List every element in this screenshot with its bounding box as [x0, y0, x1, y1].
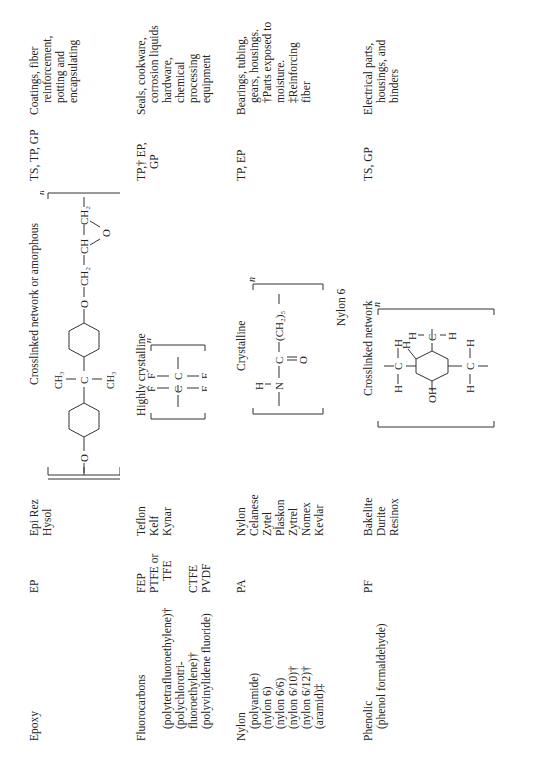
nylon-structure: H N C O (CH₂)₅ n — [249, 276, 327, 416]
svg-text:O: O — [100, 229, 112, 237]
trade-names: Teflon Kelf Kynar — [135, 506, 174, 536]
svg-text:C: C — [78, 377, 90, 384]
svg-text:CH₂: CH₂ — [78, 206, 90, 225]
abbreviation: PF — [362, 580, 375, 593]
svg-text:n: n — [374, 302, 382, 307]
ptfe-structure: C C F F F F n — [147, 331, 207, 421]
polymer-type: TS, GP — [362, 147, 375, 181]
svg-text:O: O — [78, 300, 90, 308]
svg-text:n: n — [147, 338, 153, 343]
structure-label: Crystalline — [235, 321, 247, 371]
svg-text:O: O — [297, 356, 309, 364]
svg-text:n: n — [40, 191, 46, 195]
svg-text:H: H — [446, 332, 458, 340]
structure-label: Crosslinked network — [362, 300, 374, 396]
uses: Electrical parts, housings, and binders — [362, 40, 401, 115]
svg-text:H: H — [253, 382, 265, 390]
svg-text:C: C — [392, 363, 404, 370]
svg-text:H: H — [400, 341, 412, 349]
uses: Bearings, tubing, gears, housings. †Part… — [235, 22, 313, 115]
abbreviation: PA — [235, 579, 248, 593]
svg-text:F: F — [147, 386, 157, 392]
svg-text:F: F — [147, 373, 157, 379]
uses: Seals, cookware, corrosion liquids hardw… — [135, 25, 213, 115]
structure-caption: Nylon 6 — [335, 289, 347, 326]
svg-text:H: H — [392, 385, 404, 393]
svg-text:n: n — [249, 277, 257, 282]
abbreviations: FEP PTFE or TFE CTFE PVDF — [135, 554, 213, 593]
svg-text:O: O — [78, 454, 90, 462]
svg-text:C: C — [464, 363, 476, 370]
rotated-table: Epoxy EP Epi Rez Hysol Crosslinked netwo… — [0, 0, 538, 771]
svg-text:C: C — [426, 334, 438, 341]
trade-names: Bakelite Durite Resinox — [362, 498, 401, 536]
svg-text:C: C — [172, 386, 184, 393]
material-name: Fluorocarbons (polytetrafluoroethylene)†… — [135, 608, 213, 741]
material-name: Nylon (polyamide) (nylon 6) (nylon 6/6) … — [235, 666, 326, 741]
polymer-type: TS, TP, GP — [28, 129, 41, 181]
epoxy-structure: O C CH₃ CH₃ O CH₂ CH O CH₂ n — [40, 191, 120, 481]
svg-text:CH₂: CH₂ — [78, 267, 90, 286]
uses: Coatings, fiber reinforcement, potting a… — [28, 36, 80, 115]
trade-names: Nylon Celanese Zytel Plaskon Zytrel Nome… — [235, 494, 326, 536]
abbreviation: EP — [28, 580, 41, 593]
svg-text:CH₃: CH₃ — [105, 372, 116, 389]
svg-text:CH: CH — [78, 239, 90, 254]
svg-text:OH: OH — [426, 387, 438, 403]
svg-text:H: H — [464, 385, 476, 393]
svg-text:H: H — [464, 339, 476, 347]
phenolic-structure: OH C H H H C H H C H H n — [374, 289, 498, 429]
polymer-type: TP, EP — [235, 150, 248, 181]
svg-text:C: C — [172, 373, 184, 380]
svg-text:N: N — [273, 382, 285, 390]
material-name: Phenolic (phenol formaldehyde) — [362, 623, 388, 741]
structure-label: Crosslinked network or amorphous — [28, 223, 40, 385]
svg-text:F: F — [199, 386, 207, 392]
structure-label: Highly crystalline — [135, 333, 147, 416]
svg-text:F: F — [199, 373, 207, 379]
svg-text:(CH₂)₅: (CH₂)₅ — [273, 311, 286, 341]
material-name: Epoxy — [28, 711, 41, 741]
polymer-type: TP,† EP, GP — [135, 142, 161, 181]
svg-text:C: C — [273, 357, 285, 364]
trade-names: Epi Rez Hysol — [28, 499, 54, 536]
svg-text:CH₃: CH₃ — [53, 372, 64, 389]
svg-text:H: H — [406, 332, 418, 340]
